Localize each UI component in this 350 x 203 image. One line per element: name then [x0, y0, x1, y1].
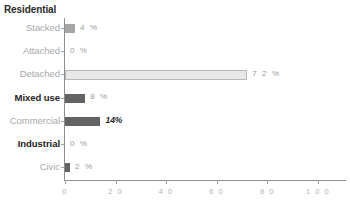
bar-value-label: 0 % [70, 139, 89, 148]
bar [65, 163, 70, 172]
category-label: Civic [0, 161, 60, 172]
category-label: Mixed use [0, 92, 60, 103]
x-axis-tick-label: 4 0 [159, 187, 174, 196]
y-axis-tick [61, 98, 64, 99]
y-axis-tick [61, 167, 64, 168]
bar [65, 94, 85, 103]
bar-value-label: 14% [105, 115, 122, 125]
category-label: Industrial [0, 138, 60, 149]
x-axis-tick-label: 2 0 [108, 187, 123, 196]
bar-value-label: 8 % [90, 92, 109, 101]
bar [65, 24, 75, 33]
y-axis-tick [61, 121, 64, 122]
bar-value-label: 0 % [70, 46, 89, 55]
y-axis-tick [61, 74, 64, 75]
bar-row: Civic2 % [0, 157, 350, 179]
x-axis-tick [267, 180, 268, 184]
x-axis-tick [318, 180, 319, 184]
x-axis-line [64, 180, 346, 181]
x-axis-tick-label: 0 [62, 187, 68, 196]
y-axis-tick [61, 144, 64, 145]
bar-value-label: 2 % [75, 162, 94, 171]
x-axis-tick [166, 180, 167, 184]
category-label: Detached [0, 68, 60, 79]
chart-group-title: Residential [4, 4, 56, 15]
bar-value-label: 4 % [80, 23, 99, 32]
category-label: Stacked [0, 22, 60, 33]
bar-row: Stacked4 % [0, 18, 350, 40]
bar-row: Industrial0 % [0, 134, 350, 156]
x-axis-tick-label: 6 0 [209, 187, 224, 196]
bar [65, 117, 100, 126]
x-axis-tick [65, 180, 66, 184]
category-label: Attached [0, 45, 60, 56]
x-axis-tick [217, 180, 218, 184]
category-label: Commercial [0, 115, 60, 126]
bar-chart: Residential Stacked4 %Attached0 %Detache… [0, 0, 350, 203]
x-axis-tick [116, 180, 117, 184]
y-axis-tick [61, 51, 64, 52]
y-axis-tick [61, 28, 64, 29]
bar-value-label: 7 2 % [252, 69, 280, 78]
bar-row: Mixed use8 % [0, 88, 350, 110]
x-axis-tick-label: 8 0 [260, 187, 275, 196]
bar-row: Attached0 % [0, 41, 350, 63]
bar [65, 70, 247, 80]
x-axis-tick-label: 1 0 0 [306, 187, 330, 196]
bar-row: Commercial14% [0, 111, 350, 133]
bar-row: Detached7 2 % [0, 64, 350, 86]
